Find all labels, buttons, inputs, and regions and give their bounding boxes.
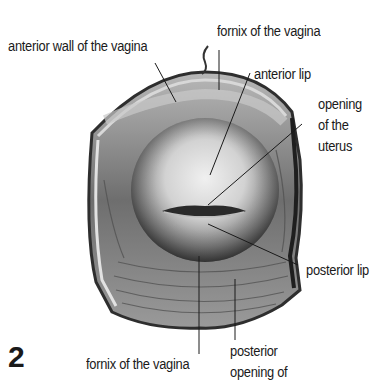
figure-number: 2 <box>8 342 25 372</box>
label-posterior-opening-2: opening of <box>230 364 287 381</box>
label-anterior-wall: anterior wall of the vagina <box>8 38 147 55</box>
label-opening-uterus-3: uterus <box>318 138 352 155</box>
label-opening-uterus-2: of the <box>318 117 349 134</box>
label-fornix-bottom: fornix of the vagina <box>86 356 189 373</box>
label-opening-uterus-1: opening <box>318 96 362 113</box>
label-fornix-top: fornix of the vagina <box>217 23 320 40</box>
cervix-illustration <box>0 0 388 385</box>
label-posterior-opening-1: posterior <box>230 343 278 360</box>
hook <box>202 46 208 74</box>
label-posterior-lip: posterior lip <box>306 262 369 279</box>
label-anterior-lip: anterior lip <box>254 66 311 83</box>
